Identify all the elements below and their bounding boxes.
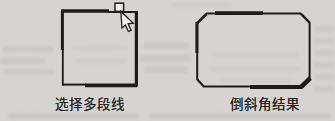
caption-select-polyline: 选择多段线 <box>47 96 133 114</box>
caption-chamfer-result: 倒斜角结果 <box>222 96 308 114</box>
scanned-page: 选择多段线 倒斜角结果 <box>0 0 335 121</box>
pickbox-icon <box>115 3 124 11</box>
